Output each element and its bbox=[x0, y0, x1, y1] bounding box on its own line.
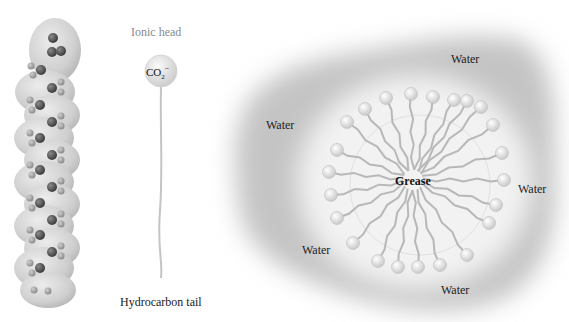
water-label-right: Water bbox=[518, 182, 546, 197]
micelle-head bbox=[325, 189, 338, 202]
water-label-bottom: Water bbox=[441, 283, 469, 298]
micelle-diagram bbox=[0, 0, 569, 322]
micelle-head bbox=[461, 249, 474, 262]
micelle-head bbox=[380, 92, 393, 105]
soap-micelle-figure: Ionic head CO2− Hydrocarbon tail bbox=[0, 0, 569, 322]
micelle-head bbox=[483, 217, 496, 230]
micelle-head bbox=[434, 259, 447, 272]
water-label-left: Water bbox=[266, 118, 294, 133]
micelle-head bbox=[496, 147, 509, 160]
micelle-head bbox=[475, 101, 488, 114]
micelle-head bbox=[347, 237, 360, 250]
micelle-head bbox=[498, 174, 511, 187]
micelle-head bbox=[372, 255, 385, 268]
micelle-head bbox=[392, 261, 405, 274]
micelle-head bbox=[461, 95, 474, 108]
water-label-bottom-left: Water bbox=[302, 243, 330, 258]
micelle-head bbox=[487, 119, 500, 132]
micelle-head bbox=[359, 103, 372, 116]
micelle-head bbox=[323, 166, 336, 179]
micelle-head bbox=[448, 94, 461, 107]
water-label-top: Water bbox=[451, 52, 479, 67]
micelle-head bbox=[490, 199, 503, 212]
micelle-head bbox=[427, 91, 440, 104]
micelle-head bbox=[331, 144, 344, 157]
micelle-head bbox=[341, 116, 354, 129]
grease-label: Grease bbox=[395, 174, 431, 189]
micelle-head bbox=[412, 261, 425, 274]
micelle-head bbox=[405, 88, 418, 101]
micelle-head bbox=[331, 212, 344, 225]
